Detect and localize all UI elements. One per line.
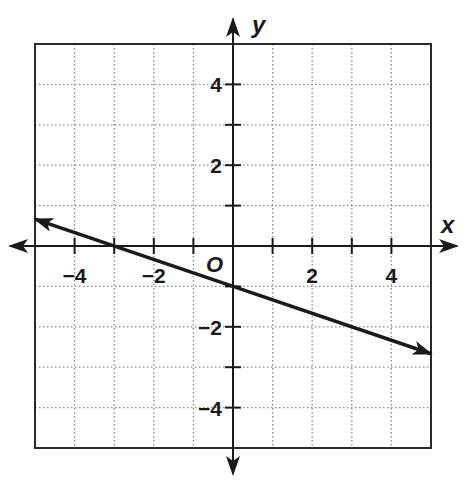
y-axis-label: y [251, 11, 267, 38]
x-tick-label: 4 [386, 264, 398, 287]
y-tick-label: −4 [198, 397, 222, 420]
coordinate-plane: −4−22442−2−4 x y O [0, 0, 471, 485]
y-tick-label: 4 [210, 73, 222, 96]
line-right-ray [233, 286, 431, 353]
x-tick-label: −4 [63, 264, 87, 287]
y-tick-label: 2 [210, 154, 222, 177]
y-tick-label: −2 [198, 316, 222, 339]
origin-label: O [206, 252, 223, 277]
x-tick-label: −2 [142, 264, 166, 287]
axes [10, 19, 457, 474]
x-axis-label: x [439, 211, 456, 238]
x-tick-label: 2 [306, 264, 318, 287]
